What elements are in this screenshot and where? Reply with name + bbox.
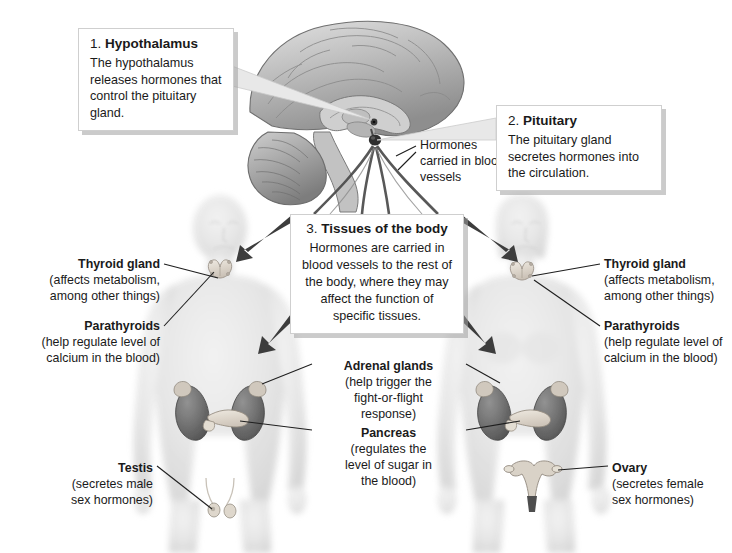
- label-detail: (secretes male: [0, 476, 153, 492]
- female-abdominal-organs: [476, 381, 568, 440]
- label-adrenal-glands: Adrenal glands (help trigger the fight-o…: [316, 358, 461, 423]
- male-abdominal-organs: [174, 381, 266, 440]
- label-pancreas: Pancreas (regulates the level of sugar i…: [316, 425, 461, 490]
- callout-3-body: Hormones are carried in blood vessels to…: [299, 240, 455, 325]
- callout-1-body: The hypothalamus releases hormones that …: [90, 55, 223, 122]
- label-heading: Adrenal glands: [316, 358, 461, 374]
- female-adrenal-right: [551, 381, 568, 396]
- callout-2-body: The pituitary gland secretes hormones in…: [508, 132, 651, 182]
- label-heading: Thyroid gland: [0, 256, 160, 272]
- callout-1-number: 1.: [90, 36, 101, 51]
- label-heading: Thyroid gland: [604, 256, 732, 272]
- annotation-blood-vessels: Hormones carried in blood vessels: [420, 137, 506, 185]
- label-heading: Testis: [0, 460, 153, 476]
- female-pancreas: [510, 410, 551, 427]
- callout-3-name: Tissues of the body: [321, 221, 448, 236]
- label-thyroid-gland-right: Thyroid gland (affects metabolism, among…: [604, 256, 732, 304]
- label-detail: response): [316, 406, 461, 422]
- label-detail: (help regulate level of: [0, 334, 160, 350]
- callout-pituitary: 2. Pituitary The pituitary gland secrete…: [496, 105, 662, 191]
- callout-hypothalamus: 1. Hypothalamus The hypothalamus release…: [78, 28, 234, 131]
- label-detail: (secretes female: [612, 476, 732, 492]
- label-detail: (help regulate level of: [604, 334, 732, 350]
- label-heading: Parathyroids: [0, 318, 160, 334]
- ovary-right: [552, 466, 562, 473]
- label-detail: fight-or-flight: [316, 390, 461, 406]
- label-detail: sex hormones): [612, 492, 732, 508]
- label-parathyroids-right: Parathyroids (help regulate level of cal…: [604, 318, 732, 366]
- label-heading: Pancreas: [316, 425, 461, 441]
- male-figure: [134, 195, 307, 553]
- label-detail: among other things): [0, 288, 160, 304]
- male-adrenal-right: [249, 381, 266, 396]
- callout-1-title: 1. Hypothalamus: [90, 36, 223, 53]
- label-testis: Testis (secretes male sex hormones): [0, 460, 153, 508]
- callout-2-name: Pituitary: [523, 113, 577, 128]
- label-detail: (regulates the: [316, 441, 461, 457]
- label-ovary: Ovary (secretes female sex hormones): [612, 460, 732, 508]
- male-testes: [206, 478, 236, 518]
- label-detail: (help trigger the: [316, 374, 461, 390]
- label-parathyroids-left: Parathyroids (help regulate level of cal…: [0, 318, 160, 366]
- male-adrenal-left: [174, 381, 191, 396]
- hypothalamus-marker: [371, 119, 378, 126]
- callout-1-name: Hypothalamus: [105, 36, 198, 51]
- label-detail: among other things): [604, 288, 732, 304]
- label-detail: (affects metabolism,: [604, 272, 732, 288]
- label-detail: (affects metabolism,: [0, 272, 160, 288]
- uterus-and-ovaries: [504, 461, 562, 512]
- label-detail: level of sugar in: [316, 457, 461, 473]
- pituitary-gland: [369, 134, 381, 145]
- label-detail: calcium in the blood): [0, 350, 160, 366]
- label-thyroid-gland-left: Thyroid gland (affects metabolism, among…: [0, 256, 160, 304]
- callout-2-number: 2.: [508, 113, 519, 128]
- endocrine-system-diagram: 1. Hypothalamus The hypothalamus release…: [0, 0, 732, 553]
- male-thyroid: [208, 260, 231, 278]
- callout-3-number: 3.: [306, 221, 317, 236]
- label-heading: Ovary: [612, 460, 732, 476]
- female-adrenal-left: [476, 381, 493, 396]
- label-heading: Parathyroids: [604, 318, 732, 334]
- label-detail: the blood): [316, 473, 461, 489]
- callout-2-title: 2. Pituitary: [508, 113, 651, 130]
- male-pancreas: [208, 410, 249, 427]
- female-thyroid: [510, 262, 533, 280]
- ovary-left: [504, 466, 514, 473]
- callout-tissues-of-the-body: 3. Tissues of the body Hormones are carr…: [290, 214, 464, 334]
- label-detail: sex hormones): [0, 492, 153, 508]
- label-detail: calcium in the blood): [604, 350, 732, 366]
- callout-3-title: 3. Tissues of the body: [299, 221, 455, 238]
